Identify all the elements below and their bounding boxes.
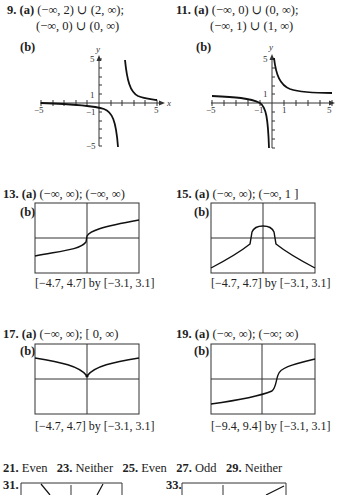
- graph-problem-33-partial: [0, 0, 340, 495]
